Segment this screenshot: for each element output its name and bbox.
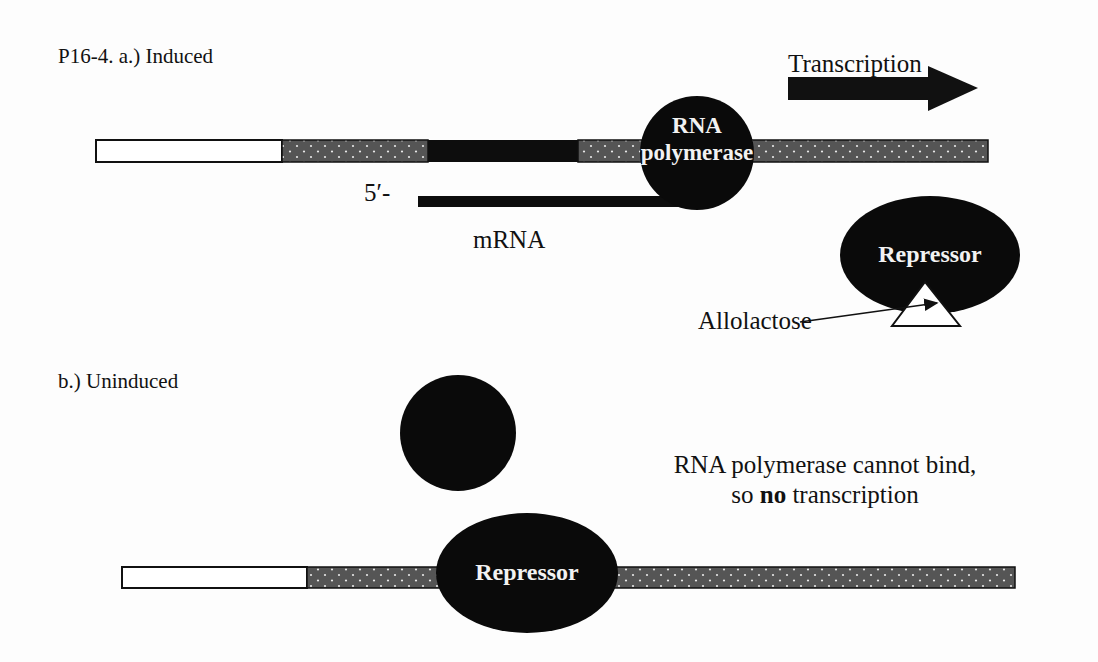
panel-b-title: b.) Uninduced [58, 369, 178, 394]
panel-a-title: P16-4. a.) Induced [58, 44, 213, 69]
promoter-region [96, 140, 282, 162]
polymerase-label-line1: RNA [640, 112, 754, 139]
repressor-label-a: Repressor [850, 241, 1010, 268]
polymerase-label-line2: polymerase [640, 139, 754, 166]
note-line2: so no transcription [650, 480, 1000, 510]
mrna-strand [418, 196, 693, 207]
mrna-label: mRNA [473, 226, 545, 254]
rna-polymerase-unbound [400, 375, 516, 491]
note-line2-post: transcription [786, 481, 919, 508]
note-line2-pre: so [731, 481, 759, 508]
operator-region [428, 140, 578, 162]
transcription-label: Transcription [788, 50, 922, 78]
note-emphasis-no: no [760, 481, 786, 508]
dna-dotted-segment-b [307, 567, 1015, 588]
five-prime-label: 5′- [364, 179, 390, 207]
allolactose-label: Allolactose [698, 307, 812, 335]
polymerase-label: RNA polymerase [640, 112, 754, 166]
note-line1: RNA polymerase cannot bind, [650, 450, 1000, 480]
no-transcription-note: RNA polymerase cannot bind, so no transc… [650, 450, 1000, 510]
panel-a-dna [96, 140, 988, 162]
repressor-label-b: Repressor [447, 559, 607, 586]
dna-dotted-segment-1 [282, 140, 428, 162]
promoter-region-b [122, 567, 307, 588]
lac-operon-diagram: P16-4. a.) Induced Transcription RNA pol… [0, 0, 1098, 662]
